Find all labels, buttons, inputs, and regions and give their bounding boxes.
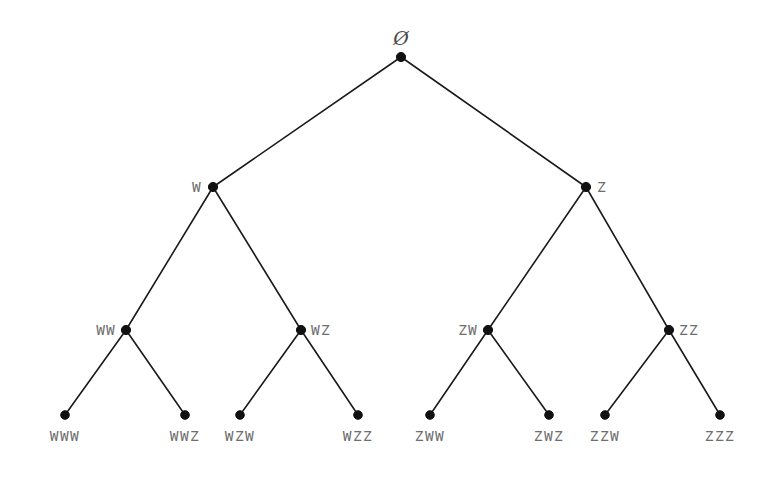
tree-node-label-zww: ZWW (415, 429, 445, 444)
tree-edge (126, 187, 213, 330)
tree-node-dot[interactable] (354, 411, 363, 420)
tree-node-dot[interactable] (483, 325, 492, 334)
tree-node-dot[interactable] (396, 52, 405, 61)
node-layer (61, 52, 725, 419)
tree-diagram-canvas: ØWZWWWZZWZZWWWWWZWZWWZZZWWZWZZZWZZZ (0, 0, 784, 480)
tree-node-label-wzw: WZW (225, 429, 255, 444)
edge-layer (65, 57, 720, 415)
tree-node-label-root: Ø (393, 29, 409, 48)
tree-edge (488, 330, 549, 415)
tree-node-label-zz: ZZ (679, 323, 699, 338)
tree-edge (430, 330, 488, 415)
tree-node-dot[interactable] (664, 325, 673, 334)
tree-edge (240, 330, 301, 415)
tree-node-label-ww: WW (96, 323, 116, 338)
tree-node-dot[interactable] (601, 411, 610, 420)
tree-node-dot[interactable] (236, 411, 245, 420)
tree-node-label-wwz: WWZ (170, 429, 200, 444)
tree-edge (669, 330, 720, 415)
tree-node-dot[interactable] (426, 411, 435, 420)
tree-node-dot[interactable] (581, 182, 590, 191)
tree-edge (586, 187, 669, 330)
tree-node-dot[interactable] (545, 411, 554, 420)
tree-node-label-w: W (192, 180, 202, 195)
tree-node-dot[interactable] (61, 411, 70, 420)
tree-node-label-www: WWW (50, 429, 80, 444)
tree-node-label-z: Z (597, 180, 607, 195)
tree-node-dot[interactable] (121, 325, 130, 334)
tree-edges-and-nodes (0, 0, 784, 480)
tree-edge (65, 330, 126, 415)
tree-edge (401, 57, 586, 187)
tree-node-label-zw: ZW (458, 323, 478, 338)
tree-node-label-zwz: ZWZ (534, 429, 564, 444)
tree-node-label-zzw: ZZW (590, 429, 620, 444)
tree-edge (213, 57, 401, 187)
tree-edge (213, 187, 301, 330)
tree-node-label-zzz: ZZZ (705, 429, 735, 444)
tree-edge (301, 330, 358, 415)
tree-node-dot[interactable] (208, 182, 217, 191)
tree-edge (605, 330, 669, 415)
tree-node-dot[interactable] (716, 411, 725, 420)
tree-edge (488, 187, 586, 330)
tree-edge (126, 330, 185, 415)
tree-node-label-wzz: WZZ (343, 429, 373, 444)
tree-node-dot[interactable] (296, 325, 305, 334)
tree-node-dot[interactable] (181, 411, 190, 420)
tree-node-label-wz: WZ (311, 323, 331, 338)
